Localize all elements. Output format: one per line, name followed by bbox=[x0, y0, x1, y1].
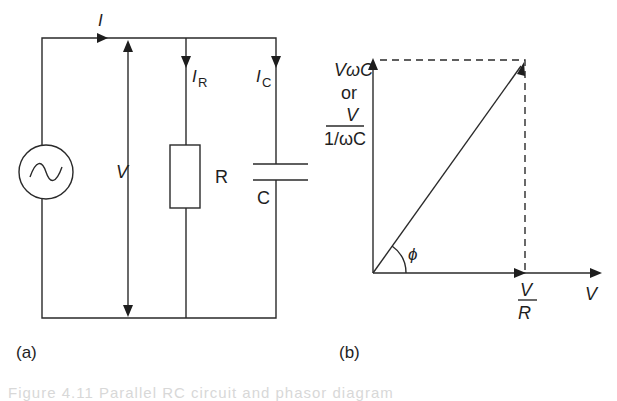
svg-text:R: R bbox=[198, 75, 207, 90]
phase-angle-label: ϕ bbox=[408, 245, 417, 264]
capacitor-symbol bbox=[253, 164, 308, 180]
figure-caption: Figure 4.11 Parallel RC circuit and phas… bbox=[8, 384, 394, 401]
ac-source-icon bbox=[19, 145, 73, 199]
panel-a-label: (a) bbox=[16, 343, 37, 362]
circuit-diagram: I V I R I C R C (a) bbox=[16, 11, 308, 362]
svg-text:or: or bbox=[341, 83, 357, 103]
vertical-phasor-label: VωC or V 1/ωC bbox=[324, 60, 374, 149]
reference-voltage-label: V bbox=[585, 284, 599, 304]
capacitor-label: C bbox=[257, 188, 270, 208]
resultant-current-phasor bbox=[373, 66, 521, 273]
svg-text:1/ωC: 1/ωC bbox=[324, 129, 366, 149]
svg-text:I: I bbox=[256, 67, 261, 86]
resistor-current-arrow-icon bbox=[181, 56, 191, 68]
panel-b-label: (b) bbox=[339, 343, 360, 362]
resistive-current-label: V R bbox=[518, 280, 537, 323]
resistor-symbol bbox=[170, 145, 200, 208]
phase-angle-arc bbox=[392, 246, 406, 273]
voltage-label: V bbox=[116, 162, 130, 182]
left-wire-top bbox=[42, 38, 276, 164]
svg-text:V: V bbox=[520, 280, 534, 300]
capacitor-current-label: I C bbox=[256, 67, 271, 90]
resistor-label: R bbox=[215, 167, 228, 187]
svg-text:VωC: VωC bbox=[334, 60, 374, 80]
svg-text:C: C bbox=[262, 75, 271, 90]
svg-text:R: R bbox=[518, 303, 531, 323]
resistive-current-phasor-head bbox=[514, 268, 526, 278]
total-current-label: I bbox=[98, 11, 103, 30]
capacitor-current-arrow-icon bbox=[271, 56, 281, 68]
current-arrow-icon bbox=[97, 33, 108, 43]
resistor-current-label: I R bbox=[192, 67, 207, 90]
svg-text:I: I bbox=[192, 67, 197, 86]
phasor-diagram: VωC or V 1/ωC ϕ V R V (b) bbox=[324, 58, 602, 362]
left-wire-bottom bbox=[42, 180, 276, 318]
svg-text:V: V bbox=[346, 105, 360, 125]
